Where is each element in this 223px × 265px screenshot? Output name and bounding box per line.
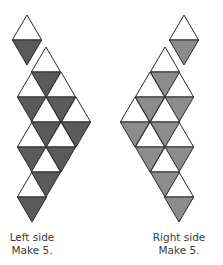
shaded-triangle [164,197,193,222]
left-small-diamond-piece [12,15,41,65]
right-large-piece [120,47,193,222]
left-caption-instruction: Make 5. [0,244,72,257]
right-caption-instruction: Make 5. [139,244,219,257]
right-side-caption: Right side Make 5. [139,231,219,257]
shaded-triangle [17,197,46,222]
left-caption-title: Left side [0,231,72,244]
right-small-diamond-piece [169,15,198,65]
white-triangle [169,15,198,40]
triangle-pieces-diagram [0,0,223,265]
right-caption-title: Right side [139,231,219,244]
left-side-caption: Left side Make 5. [0,231,72,257]
white-triangle [12,15,41,40]
left-large-piece [17,47,90,222]
